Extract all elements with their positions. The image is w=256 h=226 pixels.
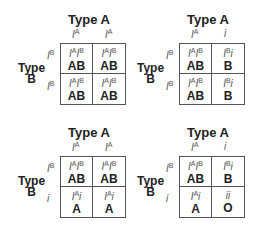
blood-type: AB	[100, 173, 117, 186]
parent-top-label: Type A	[68, 125, 110, 140]
column-allele: IA	[191, 141, 198, 153]
row-allele: IB	[47, 80, 54, 92]
genotype: IAIB	[188, 158, 203, 173]
row-allele: IB	[166, 49, 173, 61]
genotype: IAi	[104, 188, 114, 203]
blood-type: O	[223, 202, 232, 215]
blood-type: B	[224, 60, 233, 73]
row-allele: IB	[47, 162, 54, 174]
genotype: IBi	[223, 45, 233, 60]
blood-type: AB	[187, 90, 204, 103]
row-allele: i	[47, 193, 49, 204]
parent-side-label: TypeB	[137, 63, 164, 85]
parent-top-label: Type A	[68, 12, 110, 27]
column-allele: IA	[105, 28, 112, 40]
parent-top-label: Type A	[187, 125, 229, 140]
blood-type: AB	[68, 90, 85, 103]
row-allele: i	[166, 193, 168, 204]
genotype: IAIB	[188, 75, 203, 90]
column-allele: IA	[72, 141, 79, 153]
punnett-square-3: Type ATypeBIAIAIBiIAIBABIAIBABIAiAIAiA	[0, 113, 128, 226]
blood-type: AB	[100, 90, 117, 103]
column-allele: IA	[105, 141, 112, 153]
column-allele: IA	[72, 28, 79, 40]
punnett-square-1: Type ATypeBIAIAIBIBIAIBABIAIBABIAIBABIAI…	[0, 0, 128, 113]
blood-type: AB	[68, 173, 85, 186]
punnett-grid: IAIBABIBiBIAiAiiO	[179, 156, 245, 218]
grid-cell: IAiA	[61, 187, 93, 217]
row-allele: IB	[47, 49, 54, 61]
grid-cell: IAIBAB	[61, 74, 93, 104]
genotype: IAIB	[102, 45, 117, 60]
punnett-square-4: Type ATypeBIAiIBiIAIBABIBiBIAiAiiO	[119, 113, 247, 226]
genotype: IAIB	[69, 158, 84, 173]
grid-cell: IBiB	[212, 44, 244, 74]
blood-type: B	[224, 173, 233, 186]
row-allele: IB	[166, 162, 173, 174]
blood-type: A	[191, 203, 200, 216]
parent-side-label: TypeB	[137, 176, 164, 198]
blood-type: AB	[68, 60, 85, 73]
blood-type: AB	[187, 60, 204, 73]
genotype: IAIB	[69, 75, 84, 90]
grid-cell: IBiB	[212, 157, 244, 187]
genotype: IAIB	[102, 158, 117, 173]
blood-type: A	[72, 203, 81, 216]
genotype: IAi	[72, 188, 82, 203]
column-allele: IA	[191, 28, 198, 40]
genotype: IBi	[223, 158, 233, 173]
punnett-grid: IAIBABIAIBABIAiAIAiA	[60, 156, 126, 218]
grid-cell: IAIBAB	[180, 157, 212, 187]
grid-cell: IAIBAB	[180, 74, 212, 104]
genotype: ii	[226, 190, 230, 202]
genotype: IBi	[223, 75, 233, 90]
grid-cell: IAIBAB	[61, 44, 93, 74]
grid-cell: IAIBAB	[180, 44, 212, 74]
genotype: IAIB	[102, 75, 117, 90]
row-allele: IB	[166, 80, 173, 92]
blood-type: AB	[100, 60, 117, 73]
column-allele: i	[224, 141, 226, 152]
blood-type: A	[105, 203, 114, 216]
grid-cell: iiO	[212, 187, 244, 217]
parent-side-label: TypeB	[18, 63, 45, 85]
grid-cell: IAiA	[180, 187, 212, 217]
genotype: IAIB	[188, 45, 203, 60]
parent-top-label: Type A	[187, 12, 229, 27]
grid-cell: IBiB	[212, 74, 244, 104]
parent-side-label: TypeB	[18, 176, 45, 198]
grid-cell: IAIBAB	[61, 157, 93, 187]
punnett-grid: IAIBABIAIBABIAIBABIAIBAB	[60, 43, 126, 105]
genotype: IAIB	[69, 45, 84, 60]
column-allele: i	[224, 28, 226, 39]
punnett-square-2: Type ATypeBIAiIBIBIAIBABIBiBIAIBABIBiB	[119, 0, 247, 113]
blood-type: B	[224, 90, 233, 103]
blood-type: AB	[187, 173, 204, 186]
genotype: IAi	[191, 188, 201, 203]
punnett-grid: IAIBABIBiBIAIBABIBiB	[179, 43, 245, 105]
